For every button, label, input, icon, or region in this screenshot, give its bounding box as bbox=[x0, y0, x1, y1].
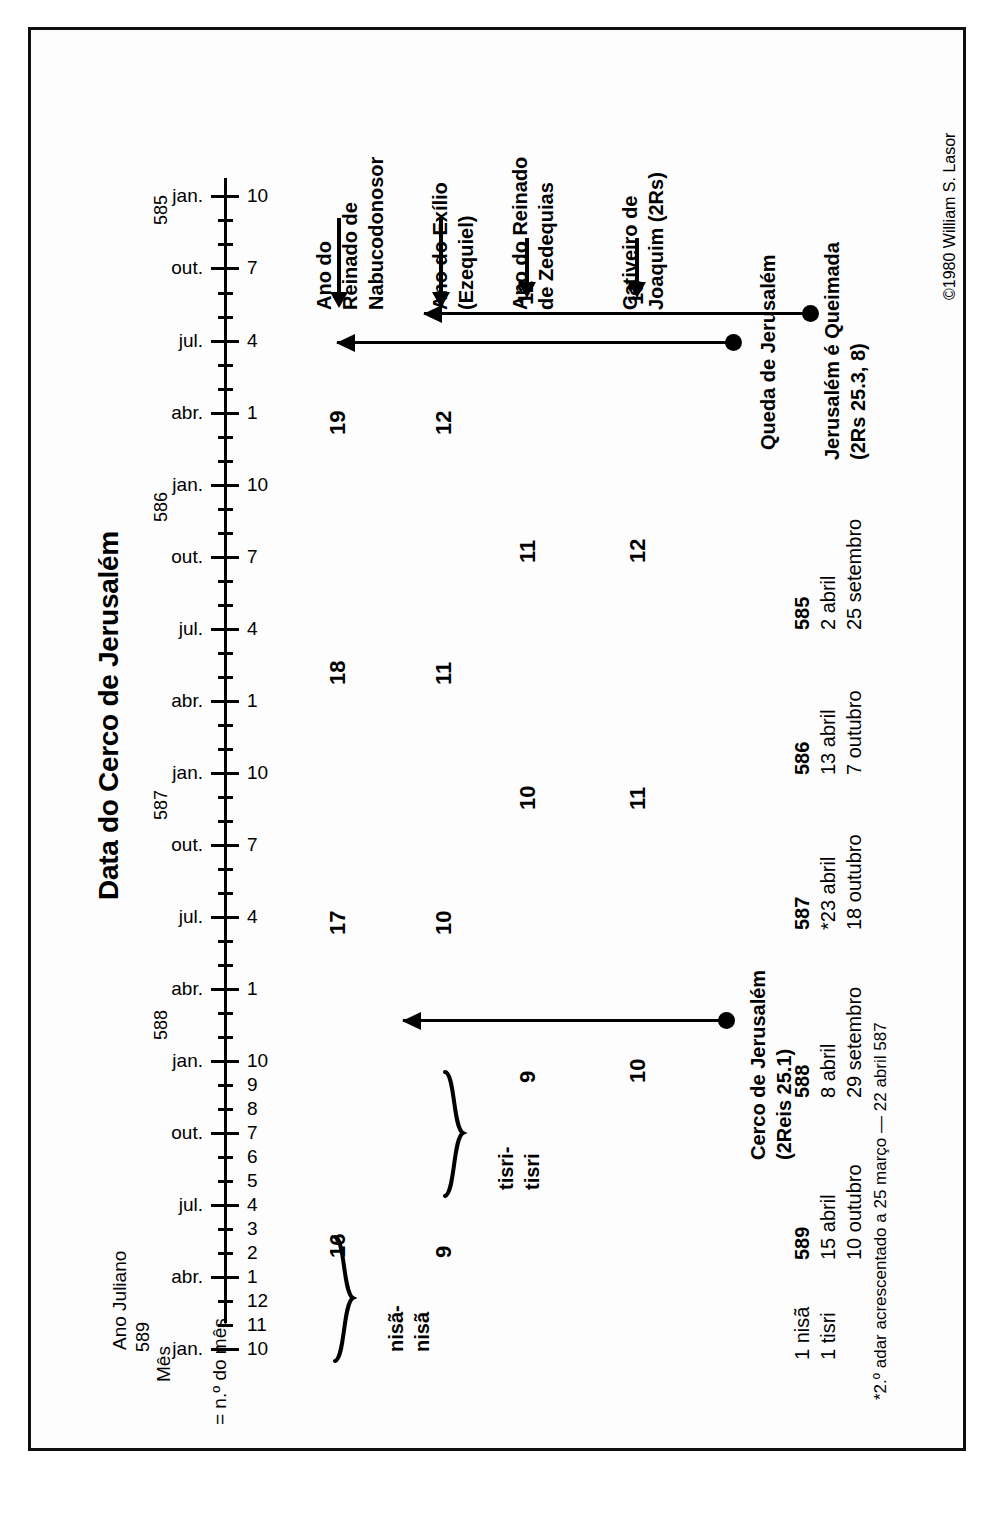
tick-minor bbox=[218, 868, 233, 871]
month-number-1: 1 bbox=[247, 978, 258, 1000]
brace-label-tisri-2: tisri bbox=[521, 1153, 543, 1190]
tick-minor bbox=[218, 1036, 233, 1039]
tick-minor bbox=[218, 940, 233, 943]
event-label-queda-de-jerusalem: Queda de Jerusalém bbox=[757, 254, 779, 450]
data-value: 11 bbox=[515, 540, 541, 563]
month-label-out: out. bbox=[113, 257, 203, 279]
table-header-year-589: 589 bbox=[791, 1227, 814, 1260]
column-header-exilio-line2: (Ezequiel) bbox=[455, 216, 477, 310]
month-number-1: 1 bbox=[247, 1266, 258, 1288]
month-label-out: out. bbox=[113, 834, 203, 856]
month-number-2: 2 bbox=[247, 1242, 258, 1264]
column-arrow-value-zedequias: 12 bbox=[513, 281, 539, 305]
table-header-year-586: 586 bbox=[791, 742, 814, 775]
month-number-1: 1 bbox=[247, 690, 258, 712]
tick-major bbox=[211, 1348, 239, 1351]
tick-minor bbox=[218, 796, 233, 799]
month-number-1: 1 bbox=[247, 402, 258, 424]
brace-label-tisri-1: tisri- bbox=[495, 1147, 517, 1190]
data-value: 10 bbox=[515, 786, 541, 810]
month-number-4: 4 bbox=[247, 618, 258, 640]
table-header-year-585: 585 bbox=[791, 597, 814, 630]
brace-nisa-nisa bbox=[331, 1235, 365, 1365]
tick-minor bbox=[218, 748, 233, 751]
tick-minor bbox=[218, 436, 233, 439]
tick-major bbox=[211, 628, 239, 631]
brace-tisri-tisri bbox=[441, 1070, 475, 1200]
tick-minor bbox=[218, 1180, 233, 1183]
event-label-cerco-de-jerusalem-line1: Cerco de Jerusalém bbox=[747, 970, 769, 1160]
column-arrow-value-cativeiro: 13 bbox=[623, 281, 649, 305]
tick-minor bbox=[218, 508, 233, 511]
tick-major bbox=[211, 484, 239, 487]
axis-year-586: 586 bbox=[151, 492, 171, 522]
data-value: 10 bbox=[625, 1059, 651, 1083]
tick-minor bbox=[218, 316, 233, 319]
tick-minor bbox=[218, 1228, 233, 1231]
tick-minor bbox=[218, 364, 233, 367]
month-number-4: 4 bbox=[247, 1194, 258, 1216]
month-number-10: 10 bbox=[247, 762, 268, 784]
event-dot-cerco-de-jerusalem bbox=[718, 1012, 735, 1029]
tick-major bbox=[211, 916, 239, 919]
tick-major bbox=[211, 844, 239, 847]
tick-minor bbox=[218, 1252, 233, 1255]
tick-major bbox=[211, 267, 239, 270]
month-number-11: 11 bbox=[247, 1314, 267, 1336]
month-label-jul: jul. bbox=[113, 618, 203, 640]
month-number-8: 8 bbox=[247, 1098, 258, 1120]
table-cell-588-nisan: 8 abril bbox=[817, 1044, 840, 1098]
month-number-4: 4 bbox=[247, 330, 258, 352]
month-label-out: out. bbox=[113, 1122, 203, 1144]
event-dot-queda-de-jerusalem bbox=[725, 334, 742, 351]
month-label-jan: jan. bbox=[113, 1050, 203, 1072]
tick-minor bbox=[218, 676, 233, 679]
table-cell-587-nisan: *23 abril bbox=[817, 857, 840, 930]
figure-frame: Data do Cerco de Jerusalém ©1980 William… bbox=[28, 27, 966, 1451]
table-header-year-587: 587 bbox=[791, 897, 814, 930]
tick-major bbox=[211, 700, 239, 703]
tick-minor bbox=[218, 219, 233, 222]
data-value: 12 bbox=[625, 539, 651, 563]
month-label-jul: jul. bbox=[113, 1194, 203, 1216]
tick-minor bbox=[218, 1156, 233, 1159]
tick-major bbox=[211, 556, 239, 559]
month-number-12: 12 bbox=[247, 1290, 268, 1312]
month-number-7: 7 bbox=[247, 546, 258, 568]
month-number-10: 10 bbox=[247, 1050, 268, 1072]
month-number-9: 9 bbox=[247, 1074, 258, 1096]
axis-year-587: 587 bbox=[151, 790, 171, 820]
column-header-nabucodonosor-line3: Nabucodonosor bbox=[365, 157, 387, 310]
month-label-abr: abr. bbox=[113, 402, 203, 424]
event-dot-jerusalem-queimada bbox=[802, 305, 819, 322]
month-number-7: 7 bbox=[247, 834, 258, 856]
tick-minor bbox=[218, 892, 233, 895]
tick-minor bbox=[218, 388, 233, 391]
tick-minor bbox=[218, 604, 233, 607]
tick-major bbox=[211, 1060, 239, 1063]
data-value: 9 bbox=[515, 1071, 541, 1083]
table-cell-585-nisan: 2 abril bbox=[817, 576, 840, 630]
tick-major bbox=[211, 1276, 239, 1279]
data-value: 17 bbox=[325, 911, 351, 935]
month-number-10: 10 bbox=[247, 474, 268, 496]
tick-major bbox=[211, 412, 239, 415]
tick-minor bbox=[218, 1012, 233, 1015]
event-label-jerusalem-queimada-line1: Jerusalém é Queimada bbox=[821, 242, 843, 460]
data-value: 18 bbox=[325, 661, 351, 685]
axis-label-numero-do-mes: = n.º do mês bbox=[209, 1318, 230, 1425]
tick-minor bbox=[218, 1084, 233, 1087]
month-label-out: out. bbox=[113, 546, 203, 568]
table-row-label-1-nisa: 1 nisã bbox=[791, 1307, 814, 1360]
tick-minor bbox=[218, 724, 233, 727]
month-label-abr: abr. bbox=[113, 690, 203, 712]
footnote-adar: *2.º adar acrescentado a 25 março — 22 a… bbox=[871, 1022, 890, 1400]
month-number-7: 7 bbox=[247, 1122, 258, 1144]
data-value: 12 bbox=[431, 411, 457, 435]
table-cell-589-nisan: 15 abril bbox=[817, 1194, 840, 1260]
axis-year-588: 588 bbox=[151, 1010, 171, 1040]
month-number-7: 7 bbox=[247, 257, 258, 279]
table-cell-586-tisri: 7 outubro bbox=[843, 690, 866, 775]
table-cell-585-tisri: 25 setembro bbox=[843, 519, 866, 630]
month-label-jan: jan. bbox=[113, 762, 203, 784]
